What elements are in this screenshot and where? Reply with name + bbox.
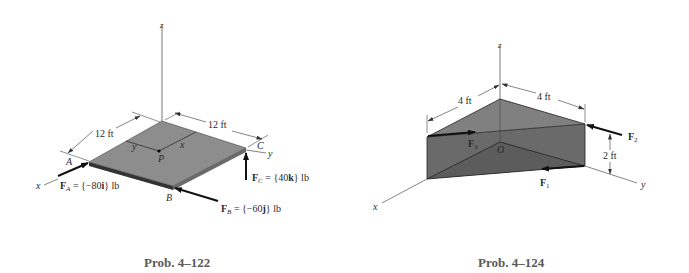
point-a-label: A bbox=[65, 156, 73, 167]
point-c-label: C bbox=[257, 140, 264, 151]
y-axis-2 bbox=[585, 166, 637, 183]
dim-2ft: 2 ft bbox=[603, 150, 617, 161]
force-fc-label: FC = {40k} lb bbox=[252, 172, 309, 185]
z-axis-label-2: z bbox=[497, 40, 502, 50]
origin-o-label: O bbox=[497, 144, 504, 155]
dim-ext-left-b bbox=[132, 112, 160, 122]
y-axis-label: y bbox=[267, 148, 273, 159]
y-axis-label-2: y bbox=[640, 179, 646, 190]
dim-line-right-2 bbox=[232, 131, 262, 139]
force-fa-arrow bbox=[58, 163, 88, 176]
figure-prob-4-122: z x y P y x 12 ft 12 ft A B C bbox=[35, 20, 309, 270]
dim-line-4ft-left-1 bbox=[428, 107, 458, 121]
force-fa-label: FA = {−80i} lb bbox=[60, 180, 119, 193]
dim-ext-right-a bbox=[165, 112, 180, 120]
z-axis-label: z bbox=[159, 20, 164, 30]
dim-4ft-right: 4 ft bbox=[537, 91, 551, 102]
figure-prob-4-124: z x y O 4 ft 4 ft 2 ft F3 bbox=[372, 40, 646, 270]
dim-line-left-1 bbox=[68, 131, 93, 153]
point-b-label: B bbox=[166, 192, 172, 203]
x-axis-label-2: x bbox=[372, 201, 378, 212]
force-f1-label: F1 bbox=[540, 177, 550, 190]
caption-prob-4-122: Prob. 4–122 bbox=[144, 255, 210, 270]
x-axis-label: x bbox=[35, 180, 41, 191]
dim-line-4ft-right-2 bbox=[558, 100, 584, 109]
dim-4ft-left: 4 ft bbox=[458, 95, 472, 106]
dim-line-4ft-right-1 bbox=[502, 84, 536, 93]
dim-line-right-1 bbox=[175, 113, 206, 122]
force-fb-arrow bbox=[175, 188, 218, 201]
p-label: P bbox=[157, 153, 164, 164]
dim-12ft-right: 12 ft bbox=[208, 119, 227, 130]
force-fb-label: FB = {−60j} lb bbox=[221, 203, 281, 216]
force-f2-arrow bbox=[587, 125, 622, 135]
caption-prob-4-124: Prob. 4–124 bbox=[478, 255, 545, 270]
p-y-label: y bbox=[131, 141, 137, 152]
x-axis-2 bbox=[382, 179, 427, 203]
dim-line-4ft-left-2 bbox=[478, 85, 499, 96]
p-x-label: x bbox=[179, 139, 185, 150]
dim-12ft-left: 12 ft bbox=[95, 128, 114, 139]
x-axis bbox=[44, 179, 58, 185]
dim-ext-left-a bbox=[60, 151, 89, 161]
force-f2-label: F2 bbox=[628, 131, 638, 144]
dim-line-left-2 bbox=[116, 116, 140, 128]
